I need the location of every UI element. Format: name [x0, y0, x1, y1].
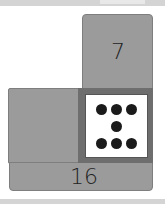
tile-bottom-label: 16 [70, 166, 98, 188]
pip-icon [126, 138, 137, 149]
pip-icon [96, 138, 107, 149]
top-strip [0, 0, 165, 6]
bottom-strip [0, 199, 165, 204]
pip-icon [111, 121, 122, 132]
pip-icon [111, 138, 122, 149]
tile-top-label: 7 [111, 41, 125, 63]
tile-left [8, 88, 80, 164]
pip-icon [96, 104, 107, 115]
top-strip-tab [100, 0, 145, 4]
pip-icon [111, 104, 122, 115]
die-face [85, 94, 148, 158]
pip-icon [126, 104, 137, 115]
